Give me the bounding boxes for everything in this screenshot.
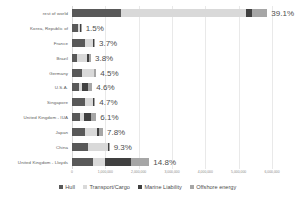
bar-row: China9.3% [72,139,272,154]
bar-segment[interactable] [91,113,97,121]
stacked-bar-chart: rest of world39.1%Korea, Republic of1.5%… [0,0,295,197]
value-label: 1.5% [86,24,104,33]
x-axis-tick-label: 1,000,000 [98,170,113,174]
stacked-bar[interactable] [72,69,96,77]
bar-row: U.S.A.4.6% [72,80,272,95]
bar-segment[interactable] [94,39,95,47]
bar-segment[interactable] [88,143,108,151]
legend-label: Hull [65,184,75,190]
legend-item[interactable]: Transport/Cargo [83,184,130,190]
bar-segment[interactable] [77,54,87,62]
bar-row: rest of world39.1% [72,6,272,21]
category-label: rest of world [43,11,68,16]
bar-segment[interactable] [131,158,150,166]
bar-row: United Kingdom - Lloyds14.8% [72,154,272,169]
stacked-bar[interactable] [72,113,96,121]
bar-segment[interactable] [94,69,96,77]
stacked-bar[interactable] [72,24,82,32]
bar-segment[interactable] [82,69,94,77]
category-label: France [54,41,68,46]
bar-segment[interactable] [72,143,88,151]
category-label: United Kingdom - IUA [24,115,68,120]
plot-area: rest of world39.1%Korea, Republic of1.5%… [72,6,272,169]
x-axis-tick-label: 2,000,000 [131,170,146,174]
category-label: Germany [49,70,68,75]
legend-swatch [59,185,63,189]
legend-item[interactable]: Hull [59,184,75,190]
category-label: Singapore [47,100,68,105]
bar-segment[interactable] [72,69,82,77]
x-axis-tick-label: 4,000,000 [198,170,213,174]
stacked-bar[interactable] [72,143,110,151]
bar-segment[interactable] [72,128,85,136]
stacked-bar[interactable] [72,158,149,166]
bar-segment[interactable] [85,128,97,136]
bar-segment[interactable] [72,113,80,121]
category-label: Japan [56,129,68,134]
bar-row: Japan7.8% [72,125,272,140]
value-label: 3.7% [99,39,117,48]
bar-row: Germany4.5% [72,65,272,80]
bar-segment[interactable] [85,39,93,47]
x-axis: 01,000,0002,000,0003,000,0004,000,0005,0… [72,170,272,180]
stacked-bar[interactable] [72,39,95,47]
legend-label: Transport/Cargo [89,184,130,190]
stacked-bar[interactable] [72,83,92,91]
bar-segment[interactable] [72,158,93,166]
stacked-bar[interactable] [72,98,95,106]
category-label: China [56,144,68,149]
value-label: 14.8% [153,157,176,166]
value-label: 6.1% [100,113,118,122]
bar-row: Brazil3.8% [72,50,272,65]
bar-segment[interactable] [72,39,85,47]
chart-legend: HullTransport/CargoMarine LiabilityOffsh… [0,184,295,190]
bar-row: United Kingdom - IUA6.1% [72,110,272,125]
value-label: 4.7% [99,98,117,107]
value-label: 9.3% [114,142,132,151]
legend-swatch [138,185,142,189]
bar-row: Korea, Republic of1.5% [72,21,272,36]
stacked-bar[interactable] [72,54,91,62]
bar-segment[interactable] [89,54,91,62]
x-axis-tick-label: 6,000,000 [264,170,279,174]
bar-segment[interactable] [72,83,79,91]
category-label: United Kingdom - Lloyds [18,159,68,164]
category-label: U.S.A. [55,85,68,90]
legend-swatch [190,185,194,189]
legend-item[interactable]: Marine Liability [138,184,182,190]
bar-segment[interactable] [252,9,267,17]
bar-segment[interactable] [93,158,105,166]
value-label: 39.1% [271,9,294,18]
bar-segment[interactable] [81,24,82,32]
bar-segment[interactable] [85,98,94,106]
stacked-bar[interactable] [72,128,103,136]
bar-segment[interactable] [72,98,85,106]
x-axis-tick-label: 5,000,000 [231,170,246,174]
legend-item[interactable]: Offshore energy [190,184,237,190]
x-axis-tick-label: 0 [71,170,73,174]
value-label: 4.5% [100,68,118,77]
bar-rows: rest of world39.1%Korea, Republic of1.5%… [72,6,272,169]
bar-segment[interactable] [121,9,247,17]
bar-segment[interactable] [94,98,95,106]
legend-label: Offshore energy [196,184,236,190]
value-label: 7.8% [107,127,125,136]
bar-segment[interactable] [109,143,110,151]
value-label: 3.8% [95,53,113,62]
legend-swatch [83,185,87,189]
category-label: Brazil [56,55,68,60]
bar-segment[interactable] [88,83,93,91]
gridline [272,6,273,169]
bar-row: Singapore4.7% [72,95,272,110]
bar-segment[interactable] [72,9,121,17]
stacked-bar[interactable] [72,9,267,17]
bar-segment[interactable] [84,113,91,121]
bar-segment[interactable] [99,128,103,136]
value-label: 4.6% [96,83,114,92]
category-label: Korea, Republic of [30,26,68,31]
bar-segment[interactable] [105,158,130,166]
x-axis-tick-label: 3,000,000 [164,170,179,174]
legend-label: Marine Liability [144,184,181,190]
bar-row: France3.7% [72,36,272,51]
